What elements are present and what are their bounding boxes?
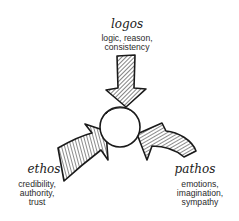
logos-desc-line-2: consistency xyxy=(105,42,151,52)
rhetorical-triangle-diagram: logos logic, reason, consistency ethos c… xyxy=(0,0,239,221)
pathos-arrow xyxy=(137,123,196,160)
ethos-title: ethos xyxy=(27,162,60,176)
center-circle xyxy=(100,107,140,147)
ethos-node: ethos credibility, authority, trust xyxy=(18,162,60,207)
logos-node: logos logic, reason, consistency xyxy=(101,17,152,52)
ethos-desc-line-3: trust xyxy=(29,197,46,207)
logos-arrow xyxy=(106,55,146,107)
logos-title: logos xyxy=(111,17,143,31)
pathos-desc-line-3: sympathy xyxy=(182,197,219,207)
pathos-node: pathos emotions, imagination, sympathy xyxy=(175,162,224,207)
pathos-title: pathos xyxy=(175,162,216,176)
